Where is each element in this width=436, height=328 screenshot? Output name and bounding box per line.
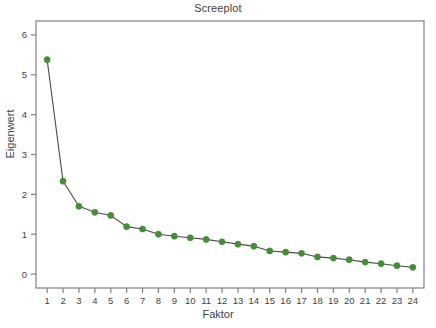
screeplot-figure: Screeplot Eigenwert Faktor 0123456 12345… — [0, 0, 436, 328]
y-tick-label: 1 — [22, 229, 27, 240]
data-point-marker — [92, 209, 98, 215]
data-point-marker — [139, 226, 145, 232]
x-tick-label: 22 — [376, 295, 387, 306]
data-point-marker — [394, 263, 400, 269]
x-tick-label: 15 — [264, 295, 275, 306]
y-tick-label: 6 — [22, 29, 27, 40]
x-tick-label: 24 — [408, 295, 419, 306]
x-tick-label: 23 — [392, 295, 403, 306]
y-tick-label: 3 — [22, 149, 27, 160]
data-point-marker — [378, 261, 384, 267]
x-tick-label: 14 — [249, 295, 260, 306]
data-point-marker — [346, 257, 352, 263]
data-point-marker — [298, 250, 304, 256]
x-tick-label: 10 — [185, 295, 196, 306]
y-tick-label: 2 — [22, 189, 27, 200]
data-point-marker — [219, 239, 225, 245]
data-point-marker — [124, 224, 130, 230]
data-point-marker — [235, 241, 241, 247]
y-tick-label: 5 — [22, 69, 27, 80]
data-point-marker — [171, 233, 177, 239]
plot-frame — [36, 21, 424, 288]
x-tick-label: 18 — [312, 295, 323, 306]
x-tick-label: 8 — [156, 295, 161, 306]
x-tick-label: 16 — [280, 295, 291, 306]
x-tick-label: 9 — [172, 295, 177, 306]
plot-area: 0123456 12345678910111213141516171819202… — [0, 0, 436, 328]
data-point-marker — [283, 249, 289, 255]
data-point-marker — [108, 212, 114, 218]
y-tick-label: 4 — [22, 109, 27, 120]
x-tick-label: 7 — [140, 295, 145, 306]
series-line — [47, 60, 413, 268]
data-point-marker — [203, 236, 209, 242]
data-point-marker — [330, 255, 336, 261]
data-point-marker — [44, 57, 50, 63]
x-tick-label: 2 — [60, 295, 65, 306]
x-tick-label: 6 — [124, 295, 129, 306]
x-tick-label: 21 — [360, 295, 371, 306]
axes-box — [36, 21, 424, 288]
data-point-marker — [187, 235, 193, 241]
y-axis-ticks: 0123456 — [22, 29, 36, 279]
x-tick-label: 4 — [92, 295, 97, 306]
data-point-marker — [314, 254, 320, 260]
x-tick-label: 19 — [328, 295, 339, 306]
x-tick-label: 17 — [296, 295, 307, 306]
data-point-marker — [251, 243, 257, 249]
x-tick-label: 11 — [201, 295, 211, 306]
data-point-marker — [410, 264, 416, 270]
x-tick-label: 5 — [108, 295, 113, 306]
data-point-marker — [155, 231, 161, 237]
series-markers — [44, 57, 416, 271]
y-tick-label: 0 — [22, 269, 27, 280]
data-point-marker — [60, 178, 66, 184]
x-tick-label: 12 — [217, 295, 228, 306]
x-tick-label: 20 — [344, 295, 355, 306]
x-axis-ticks: 123456789101112131415161718192021222324 — [44, 288, 418, 306]
data-point-marker — [267, 248, 273, 254]
x-tick-label: 3 — [76, 295, 81, 306]
x-tick-label: 13 — [233, 295, 244, 306]
eigenvalue-polyline — [47, 60, 413, 268]
x-tick-label: 1 — [44, 295, 49, 306]
data-point-marker — [362, 259, 368, 265]
data-point-marker — [76, 203, 82, 209]
